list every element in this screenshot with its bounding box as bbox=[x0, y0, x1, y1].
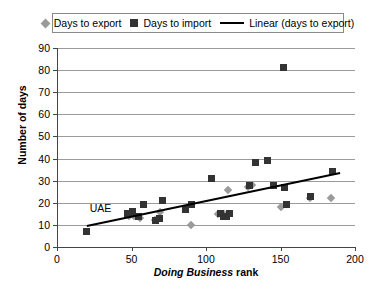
chart-legend: Days to export Days to import Linear (da… bbox=[52, 13, 344, 33]
x-axis-title: Doing Business rank bbox=[57, 266, 355, 278]
diamond-marker-icon bbox=[40, 18, 50, 28]
y-tick-label: 60 bbox=[38, 109, 50, 120]
y-tick-label: 30 bbox=[38, 176, 50, 187]
x-tick-label: 200 bbox=[346, 254, 364, 265]
x-tick-label: 50 bbox=[126, 254, 138, 265]
y-tick-label: 70 bbox=[38, 87, 50, 98]
trendline bbox=[57, 48, 355, 247]
x-tick-label: 150 bbox=[272, 254, 290, 265]
x-axis-title-rest: rank bbox=[233, 266, 258, 278]
y-tick-label: 20 bbox=[38, 198, 50, 209]
plot-area: 0102030405060708090 050100150200 UAE bbox=[57, 48, 355, 247]
y-tick-label: 50 bbox=[38, 131, 50, 142]
legend-label-linear-trend: Linear (days to export) bbox=[249, 18, 354, 29]
x-axis-line bbox=[57, 247, 355, 248]
y-tick-label: 10 bbox=[38, 220, 50, 231]
y-tick-label: 40 bbox=[38, 154, 50, 165]
y-tick-label: 90 bbox=[38, 43, 50, 54]
annotation-label: UAE bbox=[90, 203, 112, 214]
scatter-chart: Days to export Days to import Linear (da… bbox=[0, 0, 375, 287]
x-tick-label: 0 bbox=[54, 254, 60, 265]
x-tick-label: 100 bbox=[197, 254, 215, 265]
legend-label-days-to-import: Days to import bbox=[143, 18, 211, 29]
legend-label-days-to-export: Days to export bbox=[54, 18, 122, 29]
legend-item-days-to-export: Days to export bbox=[42, 18, 122, 29]
y-tick-label: 80 bbox=[38, 65, 50, 76]
y-tick-label: 0 bbox=[44, 242, 50, 253]
x-tick-mark bbox=[355, 247, 356, 251]
line-marker-icon bbox=[220, 22, 244, 24]
legend-item-linear-trend: Linear (days to export) bbox=[220, 18, 354, 29]
x-axis-title-emphasis: Doing Business bbox=[154, 266, 233, 278]
legend-item-days-to-import: Days to import bbox=[130, 18, 211, 29]
square-marker-icon bbox=[130, 19, 138, 27]
y-axis-title: Number of days bbox=[16, 70, 28, 180]
